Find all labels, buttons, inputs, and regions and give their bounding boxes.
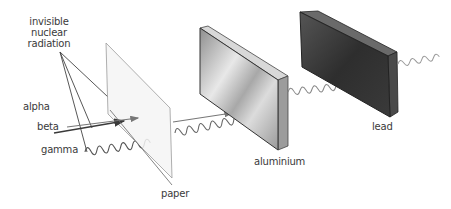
radiation-label: invisible nuclear radiation	[22, 16, 76, 49]
radiation-pointer-lines	[60, 52, 108, 152]
lead-block	[300, 11, 398, 117]
radiation-label-line2: nuclear	[22, 27, 76, 38]
lead-label: lead	[372, 121, 393, 132]
radiation-penetration-diagram: invisible nuclear radiation alpha beta g…	[0, 0, 451, 209]
aluminium-label: aluminium	[254, 156, 305, 167]
paper-label: paper	[161, 188, 189, 199]
beta-arrow-segment-2	[173, 113, 232, 122]
beta-label: beta	[37, 121, 59, 132]
radiation-label-line3: radiation	[22, 38, 76, 49]
radiation-label-line1: invisible	[22, 16, 76, 27]
aluminium-block	[200, 26, 288, 150]
paper-sheet	[106, 43, 172, 178]
gamma-wave-segment-4	[397, 54, 439, 67]
alpha-label: alpha	[23, 101, 50, 112]
alpha-arrow	[54, 121, 124, 133]
gamma-label: gamma	[41, 144, 78, 155]
